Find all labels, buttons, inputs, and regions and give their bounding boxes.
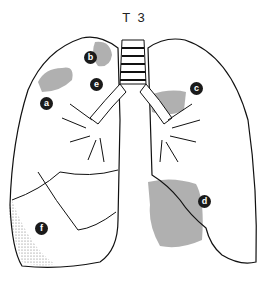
label-f: f — [35, 222, 48, 235]
region-a — [38, 68, 73, 93]
label-b: b — [84, 51, 97, 64]
lungs-diagram — [0, 0, 269, 284]
label-e: e — [90, 78, 103, 91]
region-f-stipple — [8, 200, 55, 266]
bronchial-tree — [62, 104, 200, 162]
label-d: d — [198, 195, 211, 208]
label-c: c — [190, 82, 203, 95]
region-d — [148, 179, 203, 247]
label-a: a — [40, 97, 53, 110]
